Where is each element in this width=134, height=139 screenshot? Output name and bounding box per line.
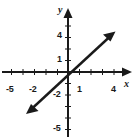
x-axis-label: x bbox=[124, 79, 129, 89]
x-tick-label-neg5: -5 bbox=[6, 85, 14, 94]
y-axis-arrowhead-icon bbox=[64, 8, 73, 18]
coordinate-plane-graph: -5 -2 1 4 4 1 -2 -5 y x bbox=[0, 0, 134, 139]
x-tick-label-pos4: 4 bbox=[111, 85, 116, 94]
x-axis-arrowhead-icon bbox=[122, 68, 132, 77]
y-axis-label: y bbox=[58, 5, 62, 15]
graph-canvas bbox=[0, 0, 134, 139]
y-tick-label-neg5: -5 bbox=[53, 124, 61, 133]
x-tick-label-neg2: -2 bbox=[29, 85, 37, 94]
y-tick-label-pos1: 1 bbox=[57, 55, 62, 64]
x-tick-label-pos1: 1 bbox=[77, 85, 82, 94]
y-tick-label-pos4: 4 bbox=[57, 31, 62, 40]
y-tick-label-neg2: -2 bbox=[53, 90, 61, 99]
